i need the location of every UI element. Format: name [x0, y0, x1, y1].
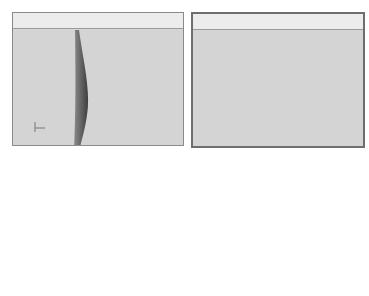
viewport-panel-persp[interactable]	[191, 12, 365, 148]
panel-menubar	[13, 13, 183, 29]
viewport-panel-top[interactable]	[12, 12, 184, 146]
viewport-persp[interactable]	[193, 31, 363, 146]
panel-menubar	[193, 14, 363, 30]
viewport-top[interactable]	[13, 30, 183, 145]
axis-indicator-icon	[31, 118, 51, 138]
fish-model-persp	[193, 31, 363, 148]
